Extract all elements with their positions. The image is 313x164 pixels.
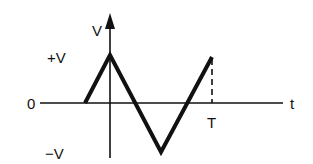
period-label: T (207, 114, 216, 131)
time-axis-label: t (290, 95, 295, 112)
waveform-diagram: V t +V 0 −V T (0, 0, 313, 164)
voltage-axis-arrow-icon (105, 13, 115, 29)
positive-level-label: +V (47, 49, 66, 66)
voltage-axis-label: V (92, 22, 102, 39)
zero-level-label: 0 (27, 95, 35, 112)
negative-level-label: −V (45, 145, 64, 162)
